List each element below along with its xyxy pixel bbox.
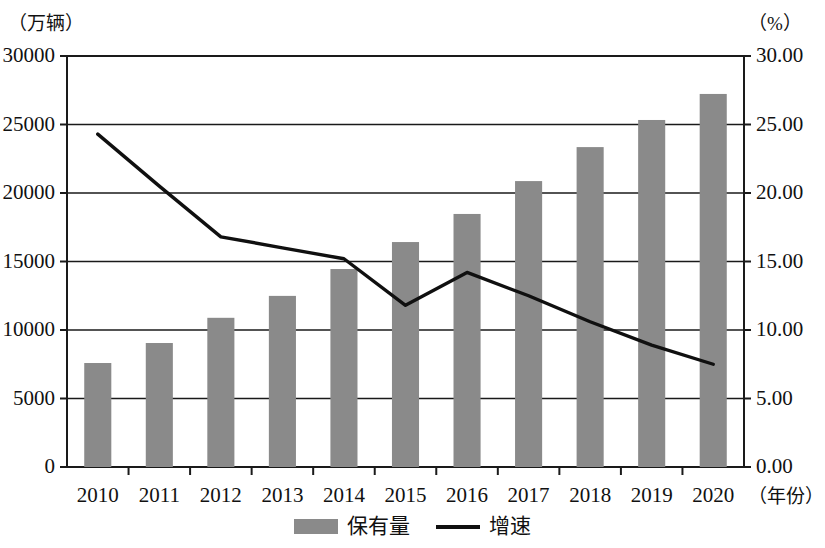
legend-line-swatch-icon bbox=[436, 525, 480, 529]
bar-2019 bbox=[638, 120, 665, 467]
legend-label-bars: 保有量 bbox=[347, 516, 410, 537]
bar-2012 bbox=[207, 318, 234, 467]
legend-item-bars: 保有量 bbox=[294, 516, 410, 537]
bar-2016 bbox=[454, 214, 481, 467]
bar-2020 bbox=[700, 94, 727, 467]
chart-legend: 保有量 增速 bbox=[0, 516, 825, 537]
bar-2015 bbox=[392, 242, 419, 467]
legend-item-line: 增速 bbox=[436, 516, 531, 537]
plot-area bbox=[0, 0, 825, 548]
legend-bar-swatch-icon bbox=[294, 519, 338, 534]
bar-2013 bbox=[269, 296, 296, 467]
bar-2017 bbox=[515, 181, 542, 467]
bar-2018 bbox=[577, 147, 604, 467]
chart-container: （万辆） （%） 050001000015000200002500030000 … bbox=[0, 0, 825, 548]
bar-2010 bbox=[84, 363, 111, 467]
bar-2014 bbox=[330, 269, 357, 467]
legend-label-line: 增速 bbox=[489, 516, 531, 537]
bar-2011 bbox=[146, 343, 173, 467]
